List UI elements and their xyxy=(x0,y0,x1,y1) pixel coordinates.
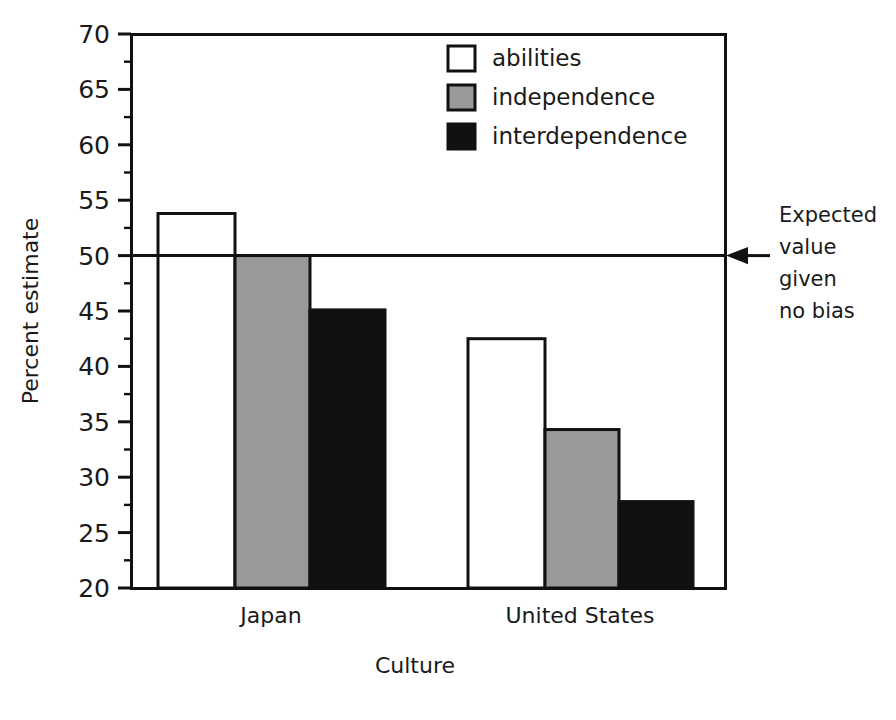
y-tick-label: 45 xyxy=(78,297,110,326)
bar-chart-figure: 70 65 60 55 50 45 40 35 30 25 20 Percent… xyxy=(0,0,896,720)
y-tick-label: 70 xyxy=(78,20,110,49)
y-tick-label: 65 xyxy=(78,75,110,104)
annotation-line-2: value xyxy=(779,235,836,259)
annotation-line-4: no bias xyxy=(779,299,855,323)
annotation-line-1: Expected xyxy=(779,203,877,227)
legend-swatch-interdependence xyxy=(448,124,475,149)
legend-label-interdependence: interdependence xyxy=(492,123,687,149)
y-tick-label: 30 xyxy=(78,463,110,492)
bar-group-japan xyxy=(158,213,385,588)
bar-japan-abilities[interactable] xyxy=(158,213,235,588)
legend-item-interdependence[interactable]: interdependence xyxy=(448,123,687,150)
expected-value-annotation: Expected value given no bias xyxy=(779,203,877,323)
bar-japan-interdependence[interactable] xyxy=(310,310,385,588)
y-tick-label: 50 xyxy=(78,242,110,271)
y-tick-label: 55 xyxy=(78,186,110,215)
legend-item-abilities[interactable]: abilities xyxy=(448,45,581,72)
x-axis-title: Culture xyxy=(375,653,455,678)
y-tick-label: 20 xyxy=(78,574,110,603)
legend-item-independence[interactable]: independence xyxy=(448,84,655,111)
legend-swatch-independence xyxy=(448,85,475,110)
chart-canvas: 70 65 60 55 50 45 40 35 30 25 20 Percent… xyxy=(0,0,896,720)
expected-value-arrow xyxy=(726,247,770,264)
legend-swatch-abilities xyxy=(448,46,475,71)
annotation-line-3: given xyxy=(779,267,837,291)
y-tick-label: 40 xyxy=(78,352,110,381)
y-axis-tick-labels: 70 65 60 55 50 45 40 35 30 25 20 xyxy=(78,20,110,603)
y-tick-label: 35 xyxy=(78,408,110,437)
y-tick-label: 25 xyxy=(78,519,110,548)
y-tick-label: 60 xyxy=(78,131,110,160)
legend-label-abilities: abilities xyxy=(492,45,581,71)
legend-label-independence: independence xyxy=(492,84,655,110)
y-axis-title: Percent estimate xyxy=(18,218,43,405)
bar-us-interdependence[interactable] xyxy=(619,502,693,588)
x-category-label-united-states: United States xyxy=(506,603,655,628)
bar-group-united-states xyxy=(468,339,693,588)
bar-us-independence[interactable] xyxy=(545,430,619,588)
bar-us-abilities[interactable] xyxy=(468,339,545,588)
x-category-label-japan: Japan xyxy=(238,603,301,628)
chart-legend: abilities independence interdependence xyxy=(448,45,687,150)
bar-japan-independence[interactable] xyxy=(235,256,310,588)
